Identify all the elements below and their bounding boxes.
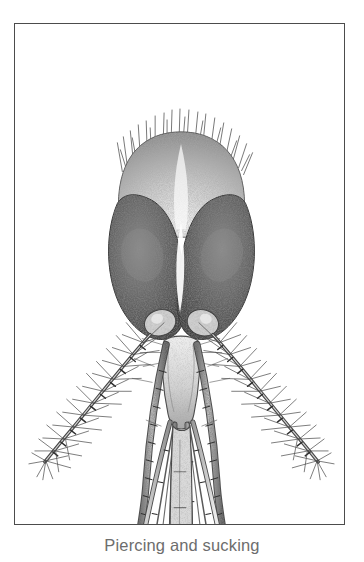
maxilla-left bbox=[93, 422, 171, 524]
labium bbox=[170, 426, 192, 524]
mosquito-head-illustration bbox=[15, 24, 344, 524]
maxilla-right bbox=[193, 422, 271, 524]
figure-root: Piercing and sucking bbox=[0, 0, 364, 562]
illustration-frame bbox=[14, 23, 345, 525]
figure-caption: Piercing and sucking bbox=[0, 536, 364, 555]
illustration-ink bbox=[29, 109, 334, 524]
